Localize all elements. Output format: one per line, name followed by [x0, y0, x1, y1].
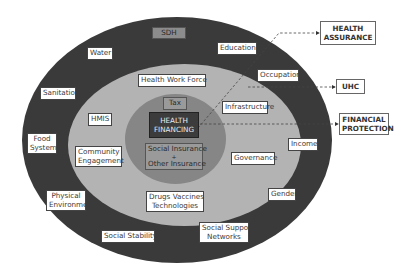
label-hmis: HMIS — [88, 113, 112, 126]
health-financing-diagram: SDH Water Education Sanitation Occupatio… — [0, 0, 411, 277]
label-income-text: Income — [291, 139, 317, 148]
label-occupation-text: Occupation — [260, 70, 301, 79]
label-infrastructure-text: Infrastructure — [225, 102, 274, 111]
label-health-financing: HEALTH FINANCING — [149, 112, 199, 138]
outcome-health-assurance: HEALTH ASSURANCE — [320, 21, 376, 45]
label-governance-text: Governance — [234, 153, 277, 162]
label-education: Education — [217, 42, 257, 55]
label-education-text: Education — [220, 43, 256, 52]
outcome-financial-protection: FINANCIAL PROTECTION — [339, 113, 389, 135]
label-governance: Governance — [231, 152, 275, 165]
label-infrastructure: Infrastructure — [222, 101, 268, 114]
outcome-uhc-text: UHC — [342, 82, 359, 91]
label-social-support-networks: Social Support Networks — [199, 222, 249, 243]
label-community-engagement: Community Engagement — [75, 146, 122, 167]
label-social-stability-text: Social Stability — [104, 231, 157, 240]
label-insurance-line2: Other Insurance — [148, 160, 200, 169]
label-sanitation: Sanitation — [40, 87, 76, 100]
label-sdh: SDH — [152, 27, 186, 39]
label-food-systems-line2: Systems — [30, 144, 54, 153]
outcome-health-assurance-line1: HEALTH — [323, 24, 373, 33]
label-physical-environment-line2: Environment — [49, 201, 83, 210]
label-social-support-line2: Networks — [202, 233, 246, 242]
outcome-financial-protection-line1: FINANCIAL — [342, 115, 386, 124]
label-sdh-text: SDH — [161, 28, 177, 37]
label-income: Income — [288, 138, 318, 151]
label-water: Water — [87, 47, 113, 60]
label-health-financing-line2: FINANCING — [152, 126, 196, 135]
label-gender: Gender — [268, 188, 296, 201]
outcome-financial-protection-line2: PROTECTION — [342, 124, 386, 133]
label-occupation: Occupation — [257, 69, 299, 82]
label-tax: Tax — [163, 97, 187, 110]
label-health-work-force-text: Health Work Force — [141, 75, 207, 84]
label-drugs-vaccines-technologies: Drugs Vaccines Technologies — [146, 191, 204, 212]
outcome-uhc: UHC — [336, 79, 365, 94]
label-tax-text: Tax — [169, 98, 181, 107]
label-community-engagement-line2: Engagement — [78, 157, 119, 166]
label-food-systems: Food Systems — [27, 133, 57, 154]
label-water-text: Water — [90, 48, 111, 57]
label-social-other-insurance: Social Insurance + Other Insurance — [145, 143, 203, 170]
label-gender-text: Gender — [271, 189, 298, 198]
label-hmis-text: HMIS — [91, 114, 109, 123]
outcome-health-assurance-line2: ASSURANCE — [323, 33, 373, 42]
label-sanitation-text: Sanitation — [43, 88, 80, 97]
label-drugs-line2: Technologies — [149, 202, 201, 211]
label-social-stability: Social Stability — [101, 230, 155, 243]
label-health-work-force: Health Work Force — [138, 74, 206, 87]
label-physical-environment: Physical Environment — [46, 190, 86, 211]
